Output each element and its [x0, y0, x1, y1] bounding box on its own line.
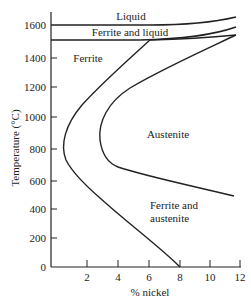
y-tick-labels: 0 200 400 600 800 1000 1200 1400 1600: [24, 19, 47, 273]
svg-text:6: 6: [146, 271, 152, 283]
x-tick-labels: 2 4 6 8 10 12: [84, 271, 245, 283]
svg-text:1000: 1000: [24, 111, 47, 123]
svg-text:800: 800: [30, 143, 47, 155]
y-axis-label: Temperature (°C): [9, 109, 22, 187]
x-ticks: [87, 260, 240, 267]
svg-text:400: 400: [30, 203, 47, 215]
svg-text:1400: 1400: [24, 52, 47, 64]
svg-text:10: 10: [205, 271, 217, 283]
region-labels: Liquid Ferrite and liquid Ferrite Austen…: [73, 10, 189, 140]
x-axis-label: % nickel: [131, 286, 170, 298]
svg-text:4: 4: [115, 271, 121, 283]
svg-text:austenite: austenite: [150, 212, 189, 224]
svg-text:1200: 1200: [24, 81, 47, 93]
label-ferrite-and-austenite: Ferrite and austenite: [150, 199, 198, 224]
svg-text:200: 200: [30, 232, 47, 244]
svg-text:1600: 1600: [24, 19, 47, 31]
phase-diagram-chart: 0 200 400 600 800 1000 1200 1400 1600 2 …: [0, 0, 251, 306]
y-ticks: [51, 58, 57, 238]
svg-text:600: 600: [30, 175, 47, 187]
label-ferrite: Ferrite: [73, 52, 102, 64]
svg-text:Ferrite and: Ferrite and: [150, 199, 198, 211]
label-liquid: Liquid: [116, 10, 146, 22]
austenite-boundary-curve: [100, 35, 236, 196]
svg-text:8: 8: [177, 271, 183, 283]
svg-text:12: 12: [235, 271, 246, 283]
label-austenite: Austenite: [147, 128, 189, 140]
ferrite-boundary-curve: [64, 40, 180, 267]
svg-text:0: 0: [41, 261, 47, 273]
label-ferrite-and-liquid: Ferrite and liquid: [92, 26, 169, 38]
svg-text:2: 2: [84, 271, 90, 283]
